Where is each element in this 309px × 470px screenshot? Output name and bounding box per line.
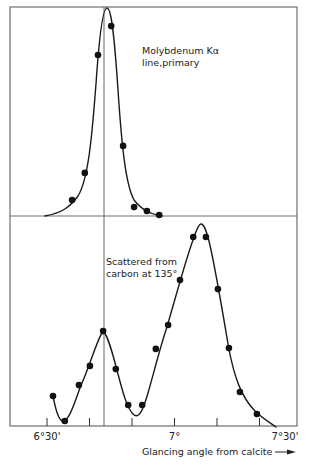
data-point xyxy=(95,52,102,59)
top-annotation-line1: Molybdenum Kα xyxy=(142,45,219,56)
data-point xyxy=(87,363,94,370)
arrow-icon xyxy=(275,450,296,455)
bottom-annotation-line2: carbon at 135° xyxy=(106,268,177,279)
data-point xyxy=(113,366,120,373)
data-point xyxy=(50,393,57,400)
bottom-fit-curve xyxy=(53,224,276,427)
data-point xyxy=(203,234,210,241)
x-axis-ticks xyxy=(47,418,260,426)
data-point xyxy=(254,411,261,418)
top-annotation-line2: line,primary xyxy=(142,57,200,68)
data-point xyxy=(76,382,83,389)
data-point xyxy=(108,23,115,30)
compton-scattering-chart: 6°30'7°7°30' Molybdenum Kα line,primary … xyxy=(0,0,309,470)
top-fit-curve xyxy=(45,8,162,216)
data-point xyxy=(100,328,107,335)
bottom-annotation-line1: Scattered from xyxy=(106,256,177,267)
data-point xyxy=(190,234,197,241)
data-point xyxy=(144,208,151,215)
x-tick-label: 7° xyxy=(169,431,180,442)
data-point xyxy=(125,402,132,409)
x-axis-label: Glancing angle from calcite xyxy=(142,446,273,457)
data-point xyxy=(82,170,89,177)
x-axis-tick-labels: 6°30'7°7°30' xyxy=(34,431,299,442)
data-point xyxy=(165,322,172,329)
data-point xyxy=(156,212,163,219)
data-point xyxy=(62,418,69,425)
data-point xyxy=(215,286,222,293)
data-point xyxy=(177,277,184,284)
data-point xyxy=(153,346,160,353)
data-point xyxy=(69,197,76,204)
data-point xyxy=(237,389,244,396)
x-tick-label: 7°30' xyxy=(272,431,299,442)
data-point xyxy=(131,204,138,211)
data-point xyxy=(139,402,146,409)
data-point xyxy=(226,345,233,352)
x-tick-label: 6°30' xyxy=(34,431,61,442)
data-point xyxy=(120,143,127,150)
